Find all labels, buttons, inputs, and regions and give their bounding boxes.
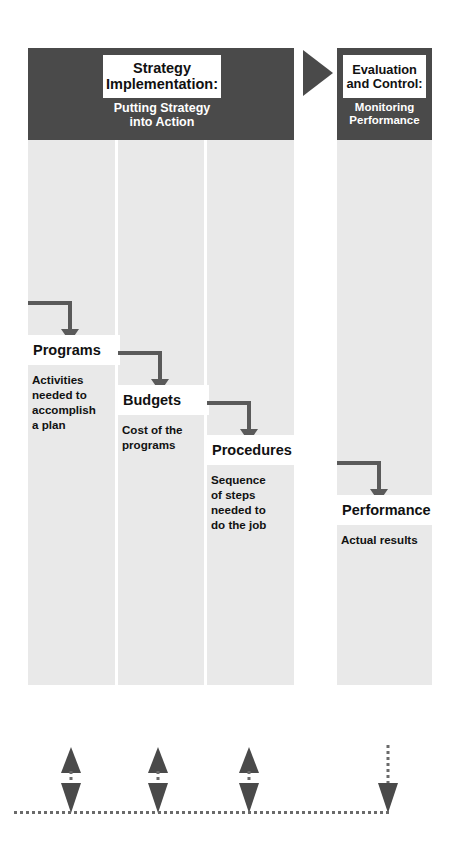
triangle-right-icon — [303, 50, 333, 96]
column-label-performance[interactable]: Performance — [337, 495, 443, 525]
strategy-implementation-title-line-2: Implementation: — [106, 77, 218, 93]
column-label-procedures-text: Procedures — [212, 442, 292, 458]
evaluation-control-subcaption-line-2: Performance — [337, 114, 432, 127]
evaluation-control-subcaption: Monitoring Performance — [337, 101, 432, 127]
strategy-implementation-subcaption-line-2: into Action — [103, 115, 221, 129]
column-description-performance: Actual results — [341, 532, 436, 547]
column-label-budgets[interactable]: Budgets — [118, 385, 209, 415]
strategy-implementation-subcaption: Putting Strategy into Action — [103, 101, 221, 130]
dotted-horizontal-rail-icon — [14, 811, 389, 814]
column-label-performance-text: Performance — [342, 502, 431, 518]
column-label-budgets-text: Budgets — [123, 392, 181, 408]
column-label-programs[interactable]: Programs — [28, 335, 120, 365]
column-description-budgets: Cost of the programs — [122, 422, 208, 452]
double-headed-dotted-arrow-icon-programs — [50, 747, 92, 813]
dotted-arrow-down-icon-performance — [367, 745, 409, 813]
double-headed-dotted-arrow-icon-budgets — [137, 747, 179, 813]
evaluation-control-subcaption-line-1: Monitoring — [337, 101, 432, 114]
strategy-implementation-title-line-1: Strategy — [133, 61, 191, 77]
column-body-performance — [337, 140, 432, 685]
double-headed-dotted-arrow-icon-procedures — [228, 747, 270, 813]
evaluation-control-title-line-1: Evaluation — [352, 63, 417, 77]
column-description-programs: Activities needed to accomplish a plan — [32, 372, 118, 432]
evaluation-control-title-line-2: and Control: — [346, 77, 422, 91]
column-label-programs-text: Programs — [33, 342, 101, 358]
diagram-canvas: Strategy Implementation: Putting Strateg… — [0, 0, 466, 853]
strategy-implementation-subcaption-line-1: Putting Strategy — [103, 101, 221, 115]
strategy-implementation-title-plate: Strategy Implementation: — [103, 55, 221, 98]
evaluation-control-title-plate: Evaluation and Control: — [343, 55, 426, 98]
column-description-procedures: Sequence of steps needed to do the job — [211, 472, 297, 532]
column-label-procedures[interactable]: Procedures — [207, 435, 306, 465]
